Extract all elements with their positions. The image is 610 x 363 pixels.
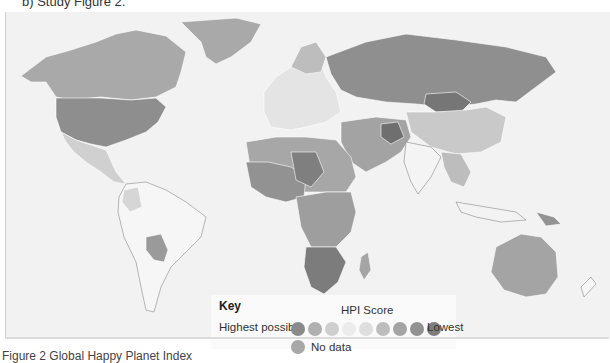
legend-no-data-swatch xyxy=(291,340,305,354)
legend-swatch xyxy=(376,322,390,336)
region-scandinavia xyxy=(291,42,326,74)
region-papua xyxy=(536,212,561,226)
region-canada xyxy=(21,30,186,100)
legend-swatch xyxy=(359,322,373,336)
region-madagascar xyxy=(359,252,371,280)
region-southeast-asia xyxy=(441,152,471,187)
legend-swatch xyxy=(308,322,322,336)
region-australia xyxy=(491,234,558,297)
region-indonesia xyxy=(456,202,526,222)
region-india xyxy=(404,142,441,194)
figure-caption: Figure 2 Global Happy Planet Index xyxy=(2,349,192,363)
region-greenland xyxy=(181,18,261,64)
legend-no-data-label: No data xyxy=(311,341,351,353)
map-figure: Key HPI Score Highest possible Lowest No… xyxy=(5,12,610,337)
legend-title: Key xyxy=(219,299,241,313)
legend-swatch xyxy=(410,322,424,336)
question-prompt: b) Study Figure 2. xyxy=(22,0,125,9)
legend-scale xyxy=(291,322,441,336)
legend-swatch xyxy=(393,322,407,336)
map-legend: Key HPI Score Highest possible Lowest No… xyxy=(211,295,456,349)
legend-swatch xyxy=(342,322,356,336)
legend-swatch xyxy=(291,322,305,336)
region-southern-africa xyxy=(304,247,346,294)
divider xyxy=(5,337,609,339)
legend-low-label: Lowest xyxy=(427,321,463,333)
region-new-zealand xyxy=(581,277,596,297)
legend-subtitle: HPI Score xyxy=(341,304,393,316)
legend-swatch xyxy=(325,322,339,336)
region-central-africa xyxy=(296,192,356,247)
world-choropleth-map xyxy=(6,12,610,337)
legend-no-data: No data xyxy=(291,340,351,354)
